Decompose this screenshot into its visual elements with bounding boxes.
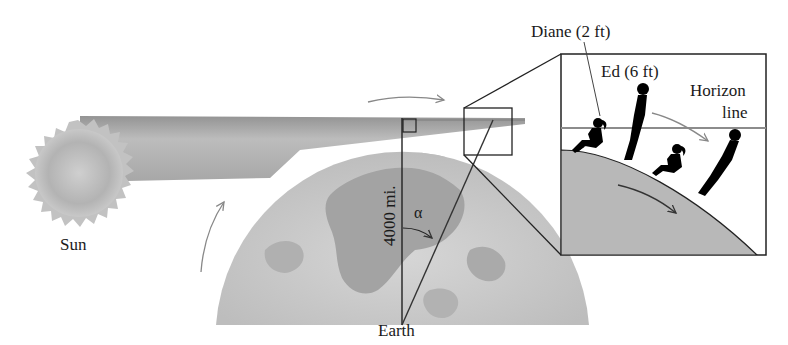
rotation-arrow-left bbox=[201, 202, 224, 272]
diane-label: Diane (2 ft) bbox=[531, 23, 610, 40]
sun-label: Sun bbox=[60, 236, 86, 253]
sun-icon bbox=[26, 119, 134, 227]
radius-label: 4000 mi. bbox=[381, 186, 398, 246]
zoom-connector-top bbox=[464, 54, 561, 108]
earth-label: Earth bbox=[378, 322, 415, 339]
diagram-canvas bbox=[0, 0, 788, 345]
inset-magnified-view bbox=[561, 42, 766, 255]
figure: Sun Earth 4000 mi. α Diane (2 ft) Ed (6 … bbox=[0, 0, 788, 345]
angle-alpha-label: α bbox=[414, 205, 422, 221]
rotation-arrow-top bbox=[368, 97, 444, 102]
ed-label: Ed (6 ft) bbox=[601, 63, 659, 80]
horizon-label-line2: line bbox=[722, 104, 748, 121]
horizon-label-line1: Horizon bbox=[690, 82, 746, 99]
